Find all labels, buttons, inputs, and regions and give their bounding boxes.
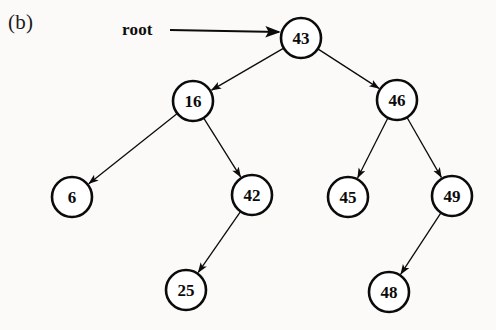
tree-edge bbox=[401, 213, 441, 274]
tree-node[interactable]: 45 bbox=[328, 177, 368, 217]
tree-node[interactable]: 16 bbox=[173, 81, 213, 121]
node-label: 45 bbox=[340, 188, 357, 207]
tree-node[interactable]: 42 bbox=[232, 175, 272, 215]
node-label: 16 bbox=[185, 92, 202, 111]
figure-container: (b) root 43164664245492548 bbox=[0, 0, 496, 330]
node-label: 49 bbox=[444, 187, 461, 206]
tree-node[interactable]: 25 bbox=[166, 270, 206, 310]
tree-edge bbox=[89, 114, 177, 184]
tree-edge bbox=[212, 48, 284, 90]
tree-edge bbox=[318, 49, 379, 88]
tree-edge bbox=[407, 118, 441, 178]
node-layer: 43164664245492548 bbox=[52, 18, 472, 312]
node-label: 48 bbox=[381, 283, 398, 302]
tree-edge bbox=[198, 212, 240, 273]
tree-node[interactable]: 6 bbox=[52, 177, 92, 217]
tree-edge bbox=[358, 118, 388, 178]
binary-search-tree-svg: 43164664245492548 bbox=[0, 0, 496, 330]
node-label: 25 bbox=[178, 281, 195, 300]
tree-node[interactable]: 43 bbox=[281, 18, 321, 58]
node-label: 6 bbox=[68, 188, 77, 207]
node-label: 42 bbox=[244, 186, 261, 205]
tree-node[interactable]: 48 bbox=[369, 272, 409, 312]
tree-node[interactable]: 49 bbox=[432, 176, 472, 216]
root-pointer-line bbox=[170, 30, 279, 32]
tree-edge bbox=[204, 118, 241, 176]
root-pointer-arrow bbox=[170, 30, 279, 32]
tree-node[interactable]: 46 bbox=[377, 80, 417, 120]
node-label: 46 bbox=[389, 91, 406, 110]
node-label: 43 bbox=[293, 29, 310, 48]
